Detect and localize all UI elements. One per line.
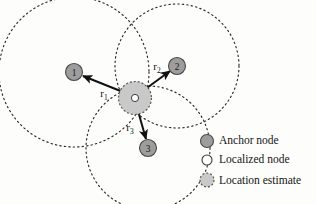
legend-label-estimate: Location estimate xyxy=(219,174,301,186)
legend-item-localized: Localized node xyxy=(202,153,290,165)
anchor-node-3: 3 xyxy=(140,140,157,157)
range-label-r1-sub: 1 xyxy=(104,93,108,102)
legend-label-localized: Localized node xyxy=(219,153,290,165)
range-label-r1: r1 xyxy=(100,87,108,102)
location-estimate-group xyxy=(119,82,152,115)
localized-node xyxy=(131,94,138,101)
anchor-node-1: 1 xyxy=(66,64,83,81)
legend: Anchor node Localized node Location esti… xyxy=(200,134,301,187)
open-white-circle-icon xyxy=(202,155,212,165)
anchor-node-2: 2 xyxy=(169,58,186,75)
figure-canvas: 1 2 3 r1 r2 r3 Anchor node xyxy=(0,0,316,204)
anchor-node-1-label: 1 xyxy=(72,68,77,78)
range-label-r3-sub: 3 xyxy=(130,127,134,136)
legend-item-anchor: Anchor node xyxy=(201,134,279,147)
anchor-node-3-label: 3 xyxy=(146,144,151,154)
dashed-gray-circle-icon xyxy=(200,173,214,187)
range-label-r3: r3 xyxy=(126,121,134,136)
legend-label-anchor: Anchor node xyxy=(219,134,279,146)
range-label-r2-sub: 2 xyxy=(157,66,161,75)
range-label-r2: r2 xyxy=(153,60,161,75)
legend-item-estimate: Location estimate xyxy=(200,173,301,187)
trilateration-diagram: 1 2 3 r1 r2 r3 Anchor node xyxy=(0,0,316,204)
anchor-node-2-label: 2 xyxy=(175,62,180,72)
filled-gray-circle-icon xyxy=(201,135,214,148)
